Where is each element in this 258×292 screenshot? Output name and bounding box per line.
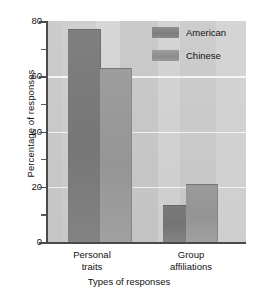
y-tick-50: [41, 104, 46, 105]
y-tick-80: [39, 21, 46, 23]
legend-item-american: American: [152, 24, 226, 41]
legend-label-american: American: [186, 27, 226, 38]
bar-american-personal-traits: [68, 29, 101, 242]
legend-label-chinese: Chinese: [186, 50, 221, 61]
y-tick-30: [41, 159, 46, 160]
legend-swatch-chinese-icon: [152, 50, 179, 61]
bar-chinese-personal-traits: [100, 68, 132, 242]
bar-chart: Percentage of responses 80 60 40 20 0: [0, 0, 258, 292]
bar-top-edge: [186, 184, 217, 185]
y-tick-70: [41, 49, 46, 50]
x-tick-label-line-2: affiliations: [148, 261, 234, 273]
x-axis-line: [46, 242, 246, 244]
bar-top-edge: [163, 205, 186, 206]
legend-swatch-american-icon: [152, 27, 179, 38]
y-tick-label-80: 80: [12, 16, 42, 26]
x-tick-label-line-1: Group: [148, 249, 234, 261]
y-axis-tick-labels: 80 60 40 20 0: [12, 0, 42, 292]
y-tick-label-0: 0: [12, 237, 42, 247]
y-tick-0: [39, 242, 46, 244]
y-tick-label-20: 20: [12, 182, 42, 192]
y-tick-40: [39, 132, 46, 134]
x-tick-label-personal-traits: Personal traits: [52, 249, 132, 272]
y-tick-label-60: 60: [12, 71, 42, 81]
x-tick-label-line-2: traits: [52, 261, 132, 273]
bar-top-edge: [100, 68, 131, 69]
y-tick-label-40: 40: [12, 127, 42, 137]
bar-american-group-affiliations: [163, 205, 187, 242]
y-tick-20: [39, 187, 46, 189]
bar-chinese-group-affiliations: [186, 184, 218, 242]
y-tick-10: [41, 214, 46, 215]
legend: American Chinese: [152, 24, 226, 70]
y-tick-60: [39, 76, 46, 78]
x-tick-label-line-1: Personal: [52, 249, 132, 261]
bar-top-edge: [68, 29, 100, 30]
legend-item-chinese: Chinese: [152, 47, 226, 64]
x-axis-title: Types of responses: [0, 276, 258, 287]
x-tick-label-group-affiliations: Group affiliations: [148, 249, 234, 272]
